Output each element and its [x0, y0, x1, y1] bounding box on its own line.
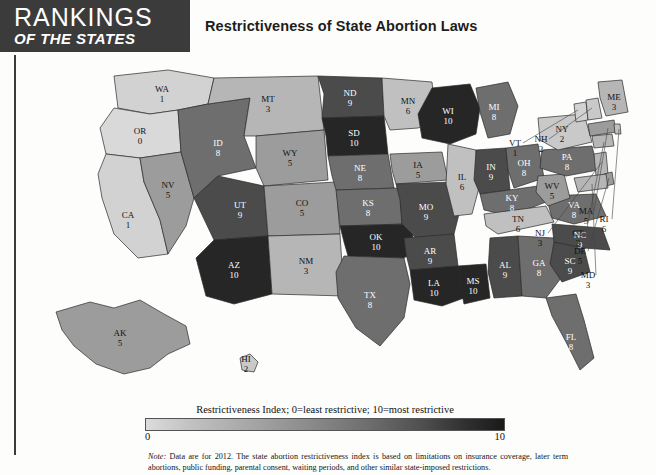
state-al[interactable] — [488, 236, 522, 298]
state-ak[interactable] — [56, 300, 190, 374]
callout-value-md: 3 — [586, 280, 591, 290]
footnote-label: Note: — [148, 452, 166, 461]
callout-label-ri: RI — [600, 214, 609, 224]
state-me[interactable] — [598, 80, 628, 116]
legend-caption: Restrictiveness Index; 0=least restricti… — [145, 404, 505, 415]
state-shapes-group — [56, 70, 628, 374]
state-ks[interactable] — [336, 188, 402, 226]
callout-value-ma: 5 — [584, 216, 589, 226]
callout-label-nj: NJ — [535, 228, 545, 238]
state-ne[interactable] — [328, 154, 394, 190]
state-ma[interactable] — [588, 120, 616, 136]
state-ri[interactable] — [614, 124, 621, 134]
state-nm[interactable] — [268, 234, 344, 296]
state-mi[interactable] — [476, 82, 518, 138]
callout-value-de: 5 — [578, 256, 583, 266]
state-hi[interactable] — [240, 354, 258, 372]
state-nh[interactable] — [586, 98, 602, 120]
callout-label-ma: MA — [579, 206, 594, 216]
map-legend: Restrictiveness Index; 0=least restricti… — [145, 404, 505, 445]
callout-label-de: DE — [574, 246, 586, 256]
choropleth-map: WA1OR0CA1NV5ID8MT3WY5UT9CO5AZ10NM3ND9SD1… — [18, 58, 648, 403]
state-co[interactable] — [264, 182, 340, 236]
state-in[interactable] — [474, 148, 510, 194]
state-la[interactable] — [410, 266, 464, 306]
state-vt[interactable] — [574, 102, 588, 122]
legend-gradient-bar — [145, 418, 505, 431]
legend-max-value: 10 — [495, 431, 506, 442]
footnote-line1: Data are for 2012. The state abortion re… — [170, 452, 568, 461]
state-ia[interactable] — [390, 152, 448, 184]
callout-value-ri: 6 — [602, 224, 607, 234]
page-header: RANKINGS OF THE STATES Restrictiveness o… — [0, 0, 656, 58]
callout-label-nh: NH — [535, 134, 548, 144]
footnote-line2: abortions, public funding, parental cons… — [148, 463, 490, 472]
state-pa[interactable] — [540, 146, 598, 176]
footnote: Note: Data are for 2012. The state abort… — [148, 452, 568, 473]
state-nd[interactable] — [318, 76, 384, 118]
state-nj[interactable] — [594, 152, 608, 176]
page-title: Restrictiveness of State Abortion Laws — [205, 18, 477, 34]
rankings-brand-banner: RANKINGS OF THE STATES — [0, 0, 190, 52]
legend-scale: 0 10 — [145, 431, 505, 445]
callout-label-ct: CT — [572, 228, 584, 238]
state-tx[interactable] — [336, 256, 410, 346]
brand-title: RANKINGS — [14, 5, 190, 30]
callout-value-vt: 1 — [513, 148, 518, 158]
callout-value-nh: 2 — [539, 144, 544, 154]
us-map-svg: WA1OR0CA1NV5ID8MT3WY5UT9CO5AZ10NM3ND9SD1… — [18, 58, 648, 403]
state-fl[interactable] — [546, 294, 594, 370]
legend-min-value: 0 — [145, 431, 150, 442]
brand-subtitle: OF THE STATES — [14, 30, 190, 48]
state-or[interactable] — [100, 108, 181, 158]
state-ar[interactable] — [404, 234, 458, 270]
left-rule-divider — [14, 55, 16, 455]
callout-value-nj: 3 — [538, 238, 543, 248]
state-sd[interactable] — [322, 116, 388, 156]
state-wy[interactable] — [256, 130, 328, 186]
state-az[interactable] — [196, 236, 272, 304]
callout-label-vt: VT — [509, 138, 521, 148]
callout-label-md: MD — [581, 270, 596, 280]
state-ms[interactable] — [458, 264, 490, 304]
